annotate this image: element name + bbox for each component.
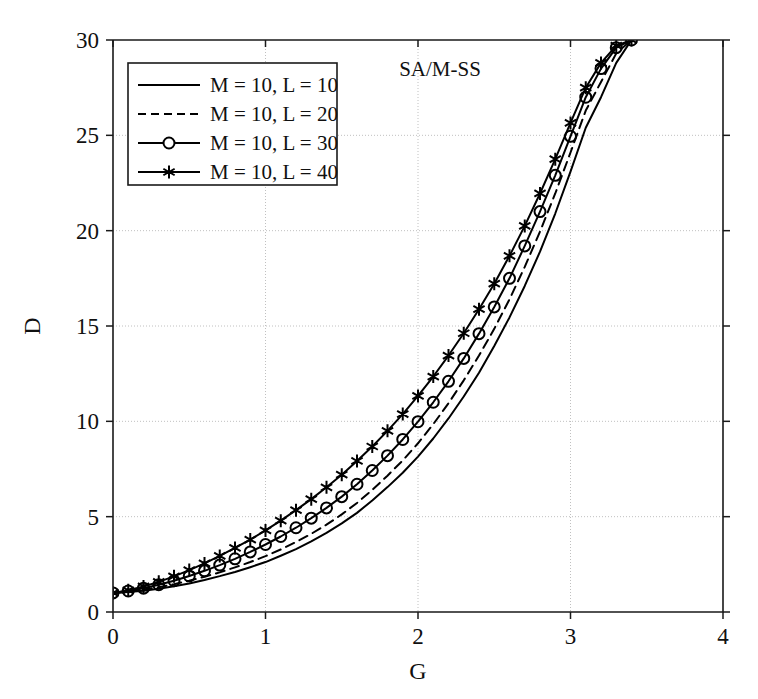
x-tick-label: 3 (565, 624, 577, 649)
legend: M = 10, L = 10M = 10, L = 20M = 10, L = … (128, 63, 338, 185)
y-tick-label: 30 (76, 28, 99, 53)
x-tick-label: 0 (107, 624, 119, 649)
data-point-marker (489, 277, 500, 290)
data-point-marker (519, 219, 530, 232)
y-axis-title: D (19, 317, 45, 334)
data-point-marker (245, 533, 256, 546)
legend-label: M = 10, L = 40 (210, 160, 338, 184)
data-point-marker (306, 493, 317, 506)
y-tick-label: 25 (76, 123, 99, 148)
data-point-marker (229, 541, 240, 554)
x-axis-title: G (409, 658, 426, 684)
chart-canvas: 05101520253001234 G D SA/M-SS M = 10, L … (0, 0, 758, 699)
legend-label: M = 10, L = 10 (210, 73, 338, 97)
legend-label: M = 10, L = 20 (210, 102, 338, 126)
y-tick-label: 0 (88, 600, 100, 625)
y-tick-label: 10 (76, 409, 99, 434)
legend-label: M = 10, L = 30 (210, 131, 338, 155)
data-point-marker (504, 249, 515, 262)
legend-circle-marker-icon (164, 138, 175, 149)
x-tick-label: 2 (412, 624, 424, 649)
y-tick-label: 5 (88, 505, 100, 530)
figure-container: 05101520253001234 G D SA/M-SS M = 10, L … (0, 0, 758, 699)
data-point-marker (290, 504, 301, 517)
data-point-marker (275, 514, 286, 527)
x-tick-label: 4 (717, 624, 729, 649)
data-point-marker (534, 187, 545, 200)
data-point-marker (260, 524, 271, 537)
chart-annotation: SA/M-SS (399, 57, 481, 81)
x-tick-label: 1 (260, 624, 272, 649)
y-tick-label: 15 (76, 314, 99, 339)
y-tick-label: 20 (76, 219, 99, 244)
data-point-marker (321, 481, 332, 494)
